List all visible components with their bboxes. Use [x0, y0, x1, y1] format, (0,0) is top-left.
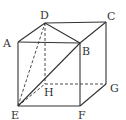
label-H: H: [44, 86, 54, 99]
edge-DA: [18, 23, 45, 42]
label-E: E: [11, 109, 19, 120]
edge-BC: [80, 22, 106, 43]
label-B: B: [82, 45, 90, 58]
edge-ED: [18, 23, 45, 106]
label-G: G: [110, 82, 119, 95]
dashed-edges: [18, 23, 106, 106]
label-D: D: [40, 9, 49, 22]
edge-CD: [45, 22, 106, 23]
label-C: C: [107, 10, 115, 23]
edge-BD: [45, 23, 80, 43]
solid-edges: [18, 22, 106, 106]
edge-AB: [18, 42, 80, 43]
cube-diagram: A B C D E F G H: [0, 0, 126, 120]
label-F: F: [78, 109, 86, 120]
label-A: A: [2, 37, 12, 50]
edge-FG: [80, 84, 106, 106]
